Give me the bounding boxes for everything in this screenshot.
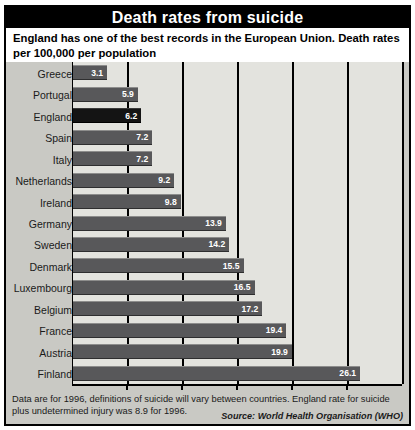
category-label: Austria xyxy=(6,347,72,359)
bar: 9.2 xyxy=(73,173,174,188)
subtitle-panel: England has one of the best records in t… xyxy=(6,28,409,62)
category-label: Portugal xyxy=(6,89,72,101)
bar-value-label: 26.1 xyxy=(339,369,356,378)
bar: 13.9 xyxy=(73,216,226,231)
bar-value-label: 9.2 xyxy=(158,176,170,185)
category-label: Italy xyxy=(6,154,72,166)
axis-tick xyxy=(291,386,293,390)
bar: 6.2 xyxy=(73,108,141,123)
footer-panel: Data are for 1996, definitions of suicid… xyxy=(6,392,409,424)
category-label: Germany xyxy=(6,218,72,230)
bar-value-label: 16.5 xyxy=(234,283,251,292)
bar: 9.8 xyxy=(73,194,181,209)
axis-tick xyxy=(126,386,128,390)
bar: 19.4 xyxy=(73,323,286,338)
bar-value-label: 7.2 xyxy=(136,133,148,142)
bar-value-label: 17.2 xyxy=(241,305,258,314)
category-label: Denmark xyxy=(6,261,72,273)
bar-value-label: 15.5 xyxy=(223,262,240,271)
bar-value-label: 13.9 xyxy=(205,219,222,228)
category-label: Greece xyxy=(6,68,72,80)
bar: 19.9 xyxy=(73,344,292,359)
bar: 5.9 xyxy=(73,87,138,102)
plot-area: GreecePortugalEnglandSpainItalyNetherlan… xyxy=(6,62,409,392)
bar-value-label: 6.2 xyxy=(125,111,137,120)
source-text: Source: World Health Organisation (WHO) xyxy=(221,411,403,422)
bar: 3.1 xyxy=(73,65,107,80)
axis-tick xyxy=(346,386,348,390)
category-label: Luxembourg xyxy=(6,282,72,294)
bar: 14.2 xyxy=(73,237,229,252)
category-label: Sweden xyxy=(6,239,72,251)
category-label: Netherlands xyxy=(6,175,72,187)
bar-value-label: 3.1 xyxy=(91,68,103,77)
category-axis-labels: GreecePortugalEnglandSpainItalyNetherlan… xyxy=(6,63,72,385)
bar-value-label: 14.2 xyxy=(208,240,225,249)
bar: 7.2 xyxy=(73,151,152,166)
gridline xyxy=(292,62,294,384)
bars-panel: 3.15.96.27.27.29.29.813.914.215.516.517.… xyxy=(72,62,402,384)
page-title: Death rates from suicide xyxy=(112,10,304,26)
axis-tick xyxy=(236,386,238,390)
category-label: Finland xyxy=(6,368,72,380)
bar: 15.5 xyxy=(73,258,244,273)
bar-value-label: 9.8 xyxy=(165,197,177,206)
category-label: Spain xyxy=(6,132,72,144)
bar-value-label: 7.2 xyxy=(136,154,148,163)
bar: 7.2 xyxy=(73,130,152,145)
bar: 26.1 xyxy=(73,366,360,381)
gridline xyxy=(402,62,404,384)
category-label: Ireland xyxy=(6,197,72,209)
bar-value-label: 19.4 xyxy=(266,326,283,335)
axis-tick xyxy=(181,386,183,390)
bar-value-label: 5.9 xyxy=(122,90,134,99)
bar: 16.5 xyxy=(73,280,255,295)
subtitle-text: England has one of the best records in t… xyxy=(13,31,403,60)
bar-value-label: 19.9 xyxy=(271,348,288,357)
title-bar: Death rates from suicide xyxy=(6,7,409,28)
chart-screenshot: Death rates from suicide England has one… xyxy=(0,0,415,430)
category-label: Belgium xyxy=(6,304,72,316)
category-label: England xyxy=(6,111,72,123)
category-label: France xyxy=(6,325,72,337)
bar: 17.2 xyxy=(73,301,262,316)
gridline xyxy=(347,62,349,384)
